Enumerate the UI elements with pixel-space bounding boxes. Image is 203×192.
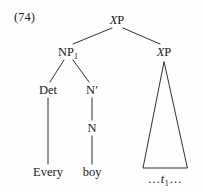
node-root-xp-rest: P [117, 13, 124, 27]
node-n: N [87, 122, 96, 135]
xp-ellipsis-triangle [143, 62, 187, 168]
trace-subscript: 1 [165, 179, 170, 188]
edge-np1-to-nbar [73, 60, 89, 82]
node-xp-right-italic-letter: X [157, 45, 165, 59]
node-root-xp-italic-letter: X [110, 13, 118, 27]
node-np1: NP1 [58, 46, 78, 59]
terminal-trace: …t1… [148, 173, 182, 186]
node-det: Det [39, 84, 57, 97]
trace-leading-ellipsis: … [148, 172, 161, 186]
node-nbar-prime: ′ [95, 83, 98, 97]
edge-np1-to-det [50, 60, 64, 82]
node-xp-right: XP [157, 46, 172, 59]
node-xp-right-rest: P [164, 45, 171, 59]
edge-root-to-np1 [73, 28, 112, 44]
edge-root-to-xp [123, 28, 160, 44]
node-np1-subscript: 1 [74, 52, 78, 61]
node-np1-text: NP [58, 45, 74, 59]
trace-trailing-ellipsis: … [169, 172, 182, 186]
syntax-tree-figure: (74) XP NP1 XP Det N′ N Every boy …t1… [0, 0, 203, 192]
tree-branches-svg [0, 0, 203, 192]
node-nbar: N′ [86, 84, 98, 97]
terminal-every: Every [33, 166, 63, 179]
terminal-boy: boy [83, 166, 102, 179]
node-nbar-text: N [86, 83, 95, 97]
node-root-xp: XP [110, 14, 125, 27]
